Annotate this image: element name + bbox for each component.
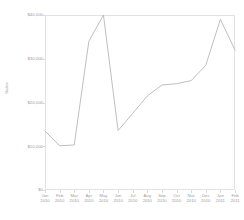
y-tick-mark <box>42 146 45 147</box>
x-tick-mark <box>147 190 148 193</box>
x-tick-mark <box>133 190 134 193</box>
x-tick-mark <box>118 190 119 193</box>
x-tick-mark <box>103 190 104 193</box>
x-tick-year: 2011 <box>223 198 244 203</box>
y-tick-mark <box>42 59 45 60</box>
x-tick-mark <box>45 190 46 193</box>
x-tick-mark <box>177 190 178 193</box>
x-tick-mark <box>206 190 207 193</box>
x-tick-label: Feb2011 <box>223 193 244 203</box>
sales-line-chart: Sales $0$10,000$20,000$30,000$40,000 Jan… <box>0 0 244 220</box>
x-tick-mark <box>74 190 75 193</box>
x-tick-mark <box>191 190 192 193</box>
x-tick-mark <box>162 190 163 193</box>
y-tick-mark <box>42 15 45 16</box>
x-tick-mark <box>220 190 221 193</box>
x-tick-mark <box>89 190 90 193</box>
x-axis-tick-labels: Jan2010Feb2010Mar2010Apr2010May2010Jun20… <box>0 0 244 220</box>
y-tick-mark <box>42 103 45 104</box>
x-tick-mark <box>60 190 61 193</box>
x-tick-mark <box>235 190 236 193</box>
